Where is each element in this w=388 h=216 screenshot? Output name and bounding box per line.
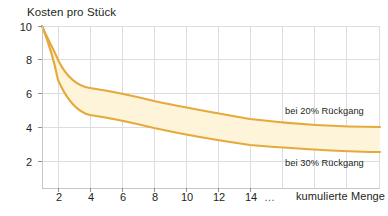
x-tick-label-14: 14	[239, 192, 263, 203]
y-tick-label-6: 6	[10, 89, 32, 100]
y-tick-label-8: 8	[10, 55, 32, 66]
y-tick-label-10: 10	[10, 22, 32, 33]
x-tick-label-2: 2	[47, 192, 71, 203]
y-tick-label-2: 2	[10, 157, 32, 168]
y-tick-marks	[38, 27, 42, 162]
x-tick-label-8: 8	[143, 192, 167, 203]
y-axis-title: Kosten pro Stück	[27, 7, 116, 19]
x-axis-ellipsis: …	[264, 192, 276, 203]
x-tick-label-12: 12	[207, 192, 231, 203]
series-label-30-percent: bei 30% Rückgang	[285, 159, 364, 168]
x-tick-label-6: 6	[111, 192, 135, 203]
x-tick-label-4: 4	[79, 192, 103, 203]
x-axis-title: kumulierte Menge	[296, 191, 385, 202]
y-tick-label-4: 4	[10, 123, 32, 134]
experience-curve-chart: Kosten pro Stück 10 8 6 4 2 2 4 6 8 10 1…	[0, 0, 388, 216]
x-tick-label-10: 10	[175, 192, 199, 203]
series-label-20-percent: bei 20% Rückgang	[285, 107, 364, 116]
